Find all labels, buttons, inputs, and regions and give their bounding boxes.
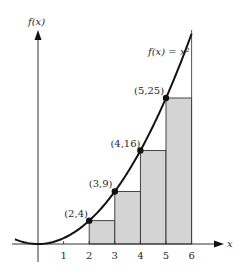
point-label: (4,16) [110, 138, 140, 149]
rectangle-3 [140, 151, 166, 244]
rectangle-4 [166, 98, 192, 244]
function-label: f(x) = x² [147, 46, 190, 57]
y-axis [35, 30, 42, 262]
x-axis-label: x [227, 238, 233, 249]
x-tick-label: 6 [188, 250, 194, 261]
x-tick-label: 5 [163, 250, 169, 261]
riemann-sum-chart: 123456 (2,4)(3,9)(4,16)(5,25) f(x) x f(x… [0, 0, 242, 275]
rectangle-2 [115, 191, 141, 244]
x-tick-label: 1 [60, 250, 66, 261]
x-axis-arrow-icon [214, 241, 224, 248]
point-label: (2,4) [64, 208, 88, 219]
point-marker [112, 188, 118, 194]
y-axis-label: f(x) [27, 16, 45, 27]
point-label: (3,9) [89, 178, 113, 189]
x-tick-label: 4 [137, 250, 143, 261]
x-tick-label: 3 [112, 250, 118, 261]
point-label: (5,25) [134, 85, 164, 96]
y-axis-arrow-icon [35, 30, 42, 40]
x-tick-label: 2 [86, 250, 92, 261]
riemann-rectangles [89, 98, 191, 244]
rectangle-1 [89, 221, 115, 244]
